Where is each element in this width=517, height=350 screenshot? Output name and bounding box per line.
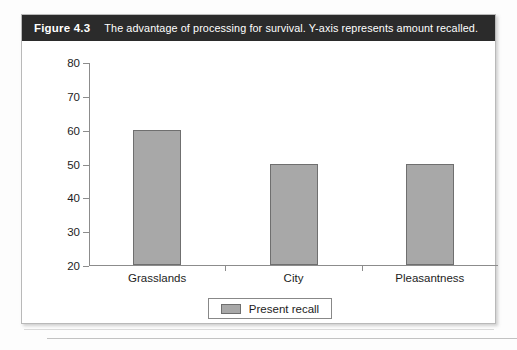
bar-chart-plot: 20304050607080 GrasslandsCityPleasantnes…: [89, 63, 498, 266]
y-axis-tick-label: 70: [67, 91, 80, 103]
bar-city: [270, 164, 318, 266]
figure-caption-text: The advantage of processing for survival…: [104, 22, 478, 34]
x-axis-line: [89, 265, 498, 266]
legend-label-present-recall: Present recall: [249, 303, 319, 315]
legend-swatch-present-recall: [221, 304, 241, 314]
x-axis-tick: [362, 266, 363, 271]
y-axis-tick-label: 80: [67, 57, 80, 69]
y-axis-tick-label: 60: [67, 125, 80, 137]
chart-legend: Present recall: [208, 298, 332, 319]
chart-area: 20304050607080 GrasslandsCityPleasantnes…: [22, 41, 495, 325]
page-divider-lower: [47, 338, 517, 339]
y-axis-line: [89, 63, 90, 266]
page-background: Figure 4.3 The advantage of processing f…: [0, 0, 517, 350]
y-axis-tick-label: 40: [67, 192, 80, 204]
x-axis-label-pleasantness: Pleasantness: [395, 272, 464, 284]
y-axis-tick: [83, 63, 89, 64]
y-axis-tick: [83, 165, 89, 166]
bar-grasslands: [133, 130, 181, 265]
y-axis-tick: [83, 266, 89, 267]
bar-pleasantness: [406, 164, 454, 266]
y-axis-tick: [83, 97, 89, 98]
y-axis-tick: [83, 232, 89, 233]
figure-caption-bar: Figure 4.3 The advantage of processing f…: [22, 15, 495, 41]
x-axis-tick: [225, 266, 226, 271]
y-axis-tick: [83, 198, 89, 199]
y-axis-tick-label: 20: [67, 260, 80, 272]
figure-panel: Figure 4.3 The advantage of processing f…: [21, 14, 496, 324]
figure-number-label: Figure 4.3: [34, 22, 90, 34]
y-axis-tick-label: 50: [67, 159, 80, 171]
y-axis-tick-label: 30: [67, 226, 80, 238]
x-axis-label-city: City: [284, 272, 304, 284]
page-divider-upper: [24, 329, 494, 330]
x-axis-label-grasslands: Grasslands: [128, 272, 186, 284]
y-axis-tick: [83, 131, 89, 132]
